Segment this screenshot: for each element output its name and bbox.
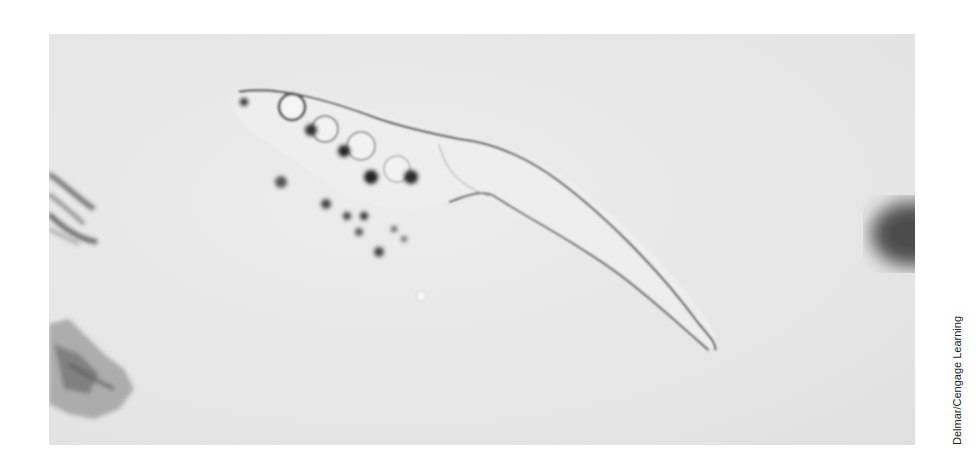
left-fibre-debris (49, 174, 97, 244)
photo-credit: Delmar/Cengage Learning (951, 316, 963, 445)
bottom-left-debris (49, 319, 134, 419)
right-dark-blob (871, 202, 915, 266)
micrograph-photo (49, 34, 915, 445)
organism-illustration (49, 34, 915, 445)
